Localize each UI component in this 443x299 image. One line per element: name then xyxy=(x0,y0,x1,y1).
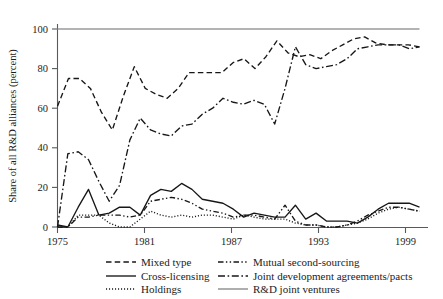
y-tick-label-80: 80 xyxy=(38,63,49,74)
x-tick-label-1993: 1993 xyxy=(308,236,329,247)
x-tick-label-1981: 1981 xyxy=(134,236,155,247)
legend-label-joint-development-agreements-pacts: Joint development agreements/pacts xyxy=(253,270,412,282)
x-tick-label-1975: 1975 xyxy=(47,236,68,247)
y-tick-label-100: 100 xyxy=(32,24,48,35)
legend-label-cross-licensing: Cross-licensing xyxy=(141,270,210,282)
y-axis-tick-labels: 100 80 60 40 20 0 xyxy=(32,24,48,233)
series-line-joint-development-agreements-pacts xyxy=(58,45,420,227)
x-tick-label-1987: 1987 xyxy=(221,236,242,247)
series-line-cross-licensing xyxy=(58,183,420,227)
legend-label-mixed-type: Mixed type xyxy=(141,256,192,268)
y-axis-title: Share of all R&D alliances (percent) xyxy=(7,49,19,203)
y-tick-label-20: 20 xyxy=(38,182,49,193)
x-axis-ticks xyxy=(58,228,406,234)
legend-label-mutual-second-sourcing: Mutual second-sourcing xyxy=(253,256,360,268)
y-tick-label-60: 60 xyxy=(38,103,49,114)
chart-legend: Mixed typeMutual second-sourcingCross-li… xyxy=(106,256,412,295)
legend-label-holdings: Holdings xyxy=(141,283,181,295)
x-axis-tick-labels: 1975 1981 1987 1993 1999 xyxy=(47,236,416,247)
series-line-mixed-type xyxy=(58,37,420,130)
chart-canvas: 100 80 60 40 20 0 1975 1981 1987 1993 19… xyxy=(0,0,443,299)
chart-figure: 100 80 60 40 20 0 1975 1981 1987 1993 19… xyxy=(0,0,443,299)
series-layer xyxy=(58,29,420,227)
y-tick-label-40: 40 xyxy=(38,142,49,153)
y-axis-ticks xyxy=(52,29,58,227)
x-tick-label-1999: 1999 xyxy=(395,236,416,247)
y-tick-label-0: 0 xyxy=(43,222,48,233)
legend-label-r-d-joint-ventures: R&D joint ventures xyxy=(253,283,340,295)
